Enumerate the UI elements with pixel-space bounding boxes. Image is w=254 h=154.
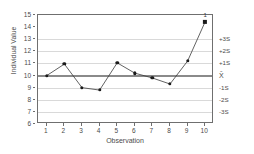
sigma-label: X̄ — [219, 71, 224, 78]
plot-area: 1 — [37, 14, 213, 123]
x-axis-tick-label: 5 — [114, 127, 118, 135]
y-axis-tick-mark — [33, 111, 36, 112]
x-axis-tick-label: 10 — [201, 127, 208, 135]
sigma-label: +2S — [219, 47, 230, 54]
individuals-control-chart: Individual Value 6789101112131415 1 +3S+… — [0, 0, 254, 154]
x-axis-tick-mark — [46, 123, 47, 126]
x-axis-tick-mark — [169, 123, 170, 126]
y-axis-tick-mark — [33, 38, 36, 39]
x-axis-tick-mark — [187, 123, 188, 126]
y-axis-tick-label: 7 — [27, 107, 31, 114]
y-axis-tick-label: 8 — [27, 95, 31, 102]
y-axis-tick-label: 11 — [24, 59, 31, 66]
sigma-label: -3S — [219, 107, 229, 114]
x-axis-tick-mark — [134, 123, 135, 126]
x-axis-tick-label: 6 — [132, 127, 136, 135]
y-axis-tick-label: 14 — [24, 23, 31, 30]
x-axis-tick-label: 3 — [79, 127, 83, 135]
y-axis-tick-label: 9 — [27, 83, 31, 90]
y-axis-tick-label: 12 — [24, 47, 31, 54]
y-axis-tick-label: 13 — [24, 35, 31, 42]
y-axis-tick-mark — [33, 26, 36, 27]
y-axis-tick-mark — [33, 75, 36, 76]
y-axis-tick-mark — [33, 62, 36, 63]
data-point[interactable] — [203, 20, 207, 24]
y-axis-tick-mark — [33, 50, 36, 51]
x-axis-tick-label: 1 — [44, 127, 48, 135]
x-axis-tick-mark — [81, 123, 82, 126]
sigma-label-group: +3S+2S+1SX̄-1S-2S-3S — [214, 14, 254, 123]
sigma-label: -2S — [219, 95, 229, 102]
x-axis-tick-mark — [116, 123, 117, 126]
x-axis-tick-label: 8 — [167, 127, 171, 135]
x-axis-tick-label: 9 — [185, 127, 189, 135]
y-axis-tick-mark — [33, 123, 36, 124]
x-axis-tick-mark — [99, 123, 100, 126]
y-axis-tick-group: 6789101112131415 — [0, 14, 35, 123]
x-axis-tick-group: 12345678910 — [37, 123, 213, 137]
x-axis-tick-label: 2 — [62, 127, 66, 135]
y-axis-tick-label: 15 — [24, 11, 31, 18]
sigma-label: +1S — [219, 59, 230, 66]
x-axis-tick-mark — [151, 123, 152, 126]
y-axis-tick-label: 10 — [24, 71, 31, 78]
x-axis-tick-mark — [63, 123, 64, 126]
y-axis-tick-mark — [33, 14, 36, 15]
y-axis-tick-mark — [33, 87, 36, 88]
x-axis-tick-label: 4 — [97, 127, 101, 135]
x-axis-title: Observation — [37, 137, 213, 144]
y-axis-tick-label: 6 — [27, 120, 31, 127]
out-of-control-marker-label: 1 — [204, 12, 207, 18]
sigma-label: +3S — [219, 35, 230, 42]
y-axis-tick-mark — [33, 99, 36, 100]
series-polyline — [38, 15, 214, 124]
x-axis-tick-label: 7 — [150, 127, 154, 135]
data-series-layer[interactable]: 1 — [38, 15, 212, 122]
x-axis-tick-mark — [204, 123, 205, 126]
sigma-label: -1S — [219, 83, 229, 90]
